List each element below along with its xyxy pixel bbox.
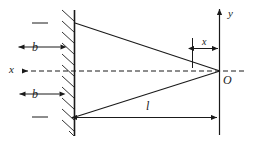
figure-canvas: b b x x y O l <box>0 0 256 142</box>
label-b-upper: b <box>32 41 38 53</box>
label-x-offset: x <box>202 37 206 47</box>
ray-upper <box>75 23 220 71</box>
hatched-wall <box>62 10 75 136</box>
label-b-lower: b <box>32 88 38 100</box>
label-origin: O <box>223 74 232 86</box>
dimension-b-lower <box>20 94 60 117</box>
wall-hatching <box>62 10 74 136</box>
dimension-b-upper <box>19 23 61 47</box>
label-x-axis: x <box>9 64 14 75</box>
diagram-svg <box>0 0 256 142</box>
label-y-axis: y <box>228 8 233 19</box>
label-length-l: l <box>146 100 149 112</box>
